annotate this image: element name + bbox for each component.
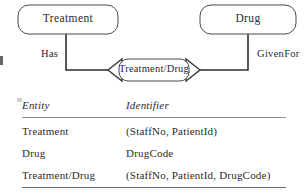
- relationship-label-has: Has: [41, 49, 58, 60]
- relationship-label-givenfor: GivenFor: [257, 49, 300, 60]
- table-row: Treatment/Drug (StaffNo, PatientId, Drug…: [22, 164, 286, 188]
- entity-label-treatment: Treatment: [18, 13, 118, 25]
- cell-identifier: (StaffNo, PatientId, DrugCode): [126, 164, 286, 188]
- table-row: Drug DrugCode: [22, 142, 286, 164]
- cell-entity: Drug: [22, 142, 126, 164]
- er-diagram-figure: Treatment Drug Treatment/Drug Has GivenF…: [0, 0, 308, 196]
- cell-entity: Treatment: [22, 118, 126, 143]
- table-head: Entity Identifier: [22, 100, 286, 118]
- cell-identifier: DrugCode: [126, 142, 286, 164]
- connector-givenfor: [200, 34, 248, 70]
- cell-entity: Treatment/Drug: [22, 164, 126, 188]
- column-header-entity: Entity: [22, 100, 126, 118]
- table-body: Treatment (StaffNo, PatientId) Drug Drug…: [22, 118, 286, 188]
- table-row: Treatment (StaffNo, PatientId): [22, 118, 286, 143]
- entity-relationship-diagram: Treatment Drug Treatment/Drug Has GivenF…: [0, 0, 308, 96]
- cell-identifier: (StaffNo, PatientId): [126, 118, 286, 143]
- entity-label-drug: Drug: [200, 13, 296, 25]
- entity-identifier-table: Entity Identifier Treatment (StaffNo, Pa…: [22, 100, 286, 188]
- assoc-entity-label-treatment-drug: Treatment/Drug: [110, 64, 198, 75]
- connector-has: [66, 34, 108, 70]
- table-header-row: Entity Identifier: [22, 100, 286, 118]
- column-header-identifier: Identifier: [126, 100, 286, 118]
